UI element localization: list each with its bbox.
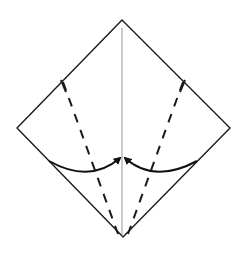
origami-diagram: Square paper in diamond orientation; fol…: [0, 0, 243, 259]
left-fold-arrow-icon: [49, 158, 120, 172]
paper-square-outline: [17, 20, 230, 237]
right-fold-arrow-icon: [125, 158, 197, 172]
fold-diagram-svg: [0, 0, 243, 259]
left-valley-fold-line: [63, 82, 118, 234]
right-valley-fold-line: [128, 82, 183, 234]
